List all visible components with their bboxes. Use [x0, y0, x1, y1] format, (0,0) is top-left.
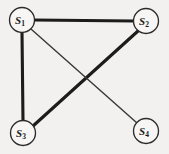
edge-s1-s4: [31, 29, 137, 123]
graph-figure: S1 S2 S3 S4: [0, 0, 169, 154]
node-s2[interactable]: S2: [134, 9, 159, 34]
edge-s1-s3: [22, 32, 23, 121]
node-s3[interactable]: S3: [11, 121, 36, 146]
node-s4[interactable]: S4: [134, 119, 159, 144]
edge-s1-s2: [34, 20, 134, 21]
node-s1[interactable]: S1: [10, 8, 35, 33]
graph-canvas: S1 S2 S3 S4: [0, 0, 169, 154]
